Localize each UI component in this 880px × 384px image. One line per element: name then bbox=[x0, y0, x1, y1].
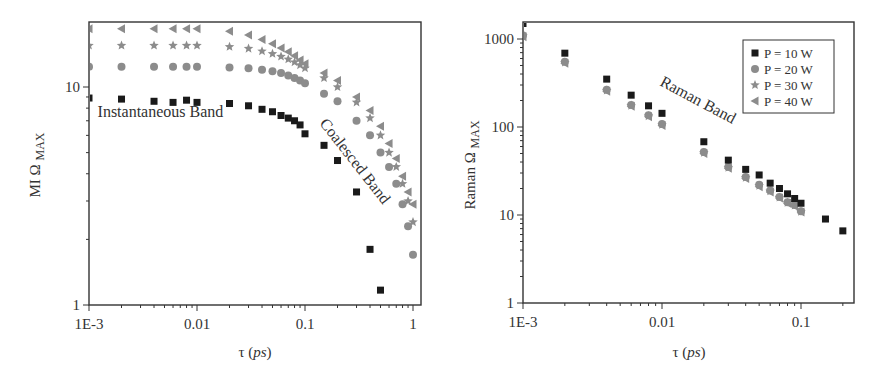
data-point bbox=[839, 227, 846, 234]
data-point bbox=[398, 172, 406, 181]
square-legend-icon bbox=[752, 50, 759, 57]
y-tick-label: 100 bbox=[492, 119, 515, 135]
raman-chart: 1E-30.010.11101001000τ (ps)Raman Ω MAXRa… bbox=[462, 20, 854, 361]
data-point bbox=[193, 24, 201, 33]
data-point bbox=[392, 180, 400, 188]
data-point bbox=[168, 41, 178, 50]
data-point bbox=[376, 122, 384, 131]
legend: P = 10 WP = 20 WP = 30 WP = 40 W bbox=[743, 40, 834, 113]
data-point bbox=[767, 180, 774, 187]
data-point bbox=[742, 173, 750, 181]
plot-frame bbox=[89, 22, 421, 305]
data-point bbox=[150, 24, 158, 33]
data-point bbox=[169, 63, 177, 71]
data-point bbox=[268, 49, 278, 58]
data-point bbox=[285, 115, 292, 122]
data-point bbox=[561, 58, 569, 66]
data-point bbox=[257, 46, 267, 55]
data-point bbox=[277, 43, 285, 52]
data-point bbox=[776, 185, 783, 192]
y-tick-label: 1000 bbox=[484, 31, 514, 47]
data-point bbox=[334, 97, 342, 105]
data-point bbox=[376, 130, 386, 139]
data-point bbox=[117, 24, 125, 33]
x-tick-label: 0.1 bbox=[296, 316, 315, 332]
data-point bbox=[117, 41, 127, 50]
data-point bbox=[321, 142, 328, 149]
data-point bbox=[226, 63, 234, 71]
data-point bbox=[700, 148, 708, 156]
data-point bbox=[192, 41, 202, 50]
y-tick-label: 1 bbox=[507, 295, 515, 311]
data-point bbox=[297, 121, 304, 128]
series-p20w bbox=[85, 63, 417, 259]
data-point bbox=[259, 106, 266, 113]
data-point bbox=[353, 188, 360, 195]
y-axis-label: MI Ω MAX bbox=[27, 132, 47, 197]
data-point bbox=[645, 102, 652, 109]
data-point bbox=[244, 44, 254, 53]
data-point bbox=[784, 198, 792, 206]
data-point bbox=[268, 67, 276, 75]
data-point bbox=[367, 246, 374, 253]
data-point bbox=[150, 63, 158, 71]
data-point bbox=[258, 66, 266, 74]
data-point bbox=[742, 166, 749, 173]
data-point bbox=[392, 154, 400, 163]
data-point bbox=[278, 112, 285, 119]
data-point bbox=[268, 39, 276, 48]
data-point bbox=[244, 31, 252, 40]
x-tick-label: 0.1 bbox=[792, 314, 811, 330]
data-point bbox=[798, 200, 805, 207]
data-point bbox=[301, 79, 309, 87]
data-point bbox=[404, 187, 412, 196]
y-tick-label: 10 bbox=[65, 79, 80, 95]
data-point bbox=[791, 195, 798, 202]
annotation-label: Instantaneous Band bbox=[98, 103, 224, 120]
data-point bbox=[659, 110, 666, 117]
x-axis-label: τ (ps) bbox=[238, 344, 271, 361]
data-point bbox=[724, 163, 732, 171]
data-point bbox=[409, 251, 417, 259]
legend-entry: P = 10 W bbox=[764, 46, 814, 61]
x-tick-label: 0.01 bbox=[649, 314, 675, 330]
data-point bbox=[302, 130, 309, 137]
figure: 1E-30.010.11110τ (ps)MI Ω MAXInstantaneo… bbox=[0, 0, 880, 384]
data-point bbox=[755, 181, 763, 189]
x-tick-label: 1 bbox=[409, 316, 417, 332]
data-point bbox=[561, 50, 568, 57]
data-point bbox=[700, 138, 707, 145]
data-point bbox=[645, 111, 653, 119]
data-point bbox=[366, 131, 374, 139]
data-point bbox=[353, 117, 361, 125]
data-point bbox=[822, 216, 829, 223]
data-point bbox=[377, 287, 384, 294]
data-point bbox=[334, 157, 341, 164]
data-point bbox=[245, 102, 252, 109]
data-point bbox=[756, 171, 763, 178]
data-point bbox=[797, 207, 805, 215]
legend-entry: P = 40 W bbox=[764, 94, 814, 109]
mi-chart: 1E-30.010.11110τ (ps)MI Ω MAXInstantaneo… bbox=[27, 22, 421, 361]
data-point bbox=[225, 42, 235, 51]
data-point bbox=[784, 190, 791, 197]
data-point bbox=[791, 201, 799, 209]
x-tick-label: 1E-3 bbox=[508, 314, 537, 330]
data-point bbox=[320, 90, 328, 98]
y-tick-label: 1 bbox=[73, 297, 81, 313]
data-point bbox=[385, 163, 393, 171]
x-tick-label: 0.01 bbox=[184, 316, 210, 332]
data-point bbox=[182, 24, 190, 33]
data-point bbox=[384, 148, 394, 157]
data-point bbox=[603, 76, 610, 83]
data-point bbox=[628, 92, 635, 99]
data-point bbox=[658, 120, 666, 128]
data-point bbox=[627, 101, 635, 109]
data-point bbox=[182, 41, 192, 50]
circle-legend-icon bbox=[751, 65, 759, 73]
data-point bbox=[399, 200, 407, 208]
data-point bbox=[258, 35, 266, 44]
legend-entry: P = 20 W bbox=[764, 62, 814, 77]
data-point bbox=[366, 106, 374, 115]
data-point bbox=[118, 96, 125, 103]
